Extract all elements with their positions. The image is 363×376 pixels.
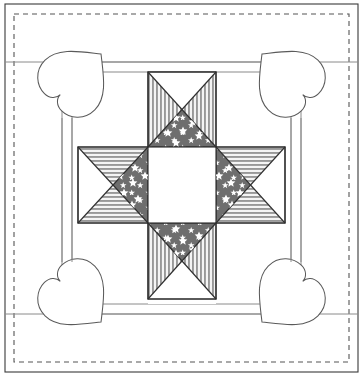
quilt-pattern-page: [0, 0, 363, 376]
center-white-square: [148, 147, 216, 223]
arm-bottom: [148, 223, 216, 299]
quilt-diagram: [0, 0, 363, 376]
arm-right: [216, 147, 285, 223]
arm-left: [78, 147, 148, 223]
arm-top: [148, 72, 216, 147]
